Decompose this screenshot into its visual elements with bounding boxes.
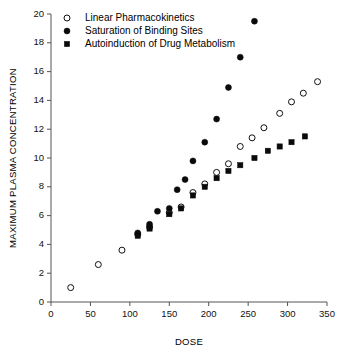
y-tick-label: 14 [33,94,44,105]
data-points-group [68,18,321,290]
x-axis-title: DOSE [175,336,203,347]
y-tick-label: 8 [39,180,44,191]
marker-filled-square [147,226,152,231]
legend-label: Autoinduction of Drug Metabolism [85,38,235,49]
marker-filled-square [289,140,294,145]
series-filled-circle [135,18,258,236]
marker-filled-square [135,233,140,238]
marker-open-circle [300,90,306,96]
x-tick-label: 300 [280,308,296,319]
legend-label: Saturation of Binding Sites [85,25,203,36]
marker-open-circle [289,99,295,105]
marker-filled-square [167,212,172,217]
x-tick-label: 0 [48,308,53,319]
x-tick-label: 250 [240,308,256,319]
marker-filled-circle [174,187,180,193]
marker-filled-circle [202,139,208,145]
marker-open-circle [261,125,267,131]
y-tick-label: 20 [33,8,44,19]
marker-filled-circle [190,158,196,164]
marker-filled-square [190,193,195,198]
marker-open-circle [277,110,283,116]
marker-filled-circle [237,54,243,60]
chart-figure: 02468101214161820050100150200250300350 L… [0,0,345,356]
x-tick-label: 350 [319,308,335,319]
marker-filled-circle [154,208,160,214]
y-tick-label: 12 [33,123,44,134]
marker-filled-circle [166,205,172,211]
marker-open-circle [237,143,243,149]
marker-filled-square [214,176,219,181]
x-tick-label: 100 [122,308,138,319]
marker-filled-circle [182,177,188,183]
y-tick-label: 18 [33,36,44,47]
marker-open-circle [64,15,70,21]
chart-legend: Linear PharmacokineticsSaturation of Bin… [64,12,235,49]
series-filled-square [135,134,307,239]
marker-open-circle [119,247,125,253]
marker-open-circle [95,262,101,268]
y-tick-label: 6 [39,209,44,220]
marker-filled-square [202,184,207,189]
marker-filled-square [226,168,231,173]
scatter-plot: 02468101214161820050100150200250300350 L… [0,0,345,356]
marker-filled-square [277,144,282,149]
y-tick-label: 0 [39,296,44,307]
marker-open-circle [249,135,255,141]
y-axis-title: MAXIMUM PLASMA CONCENTRATION [7,68,18,248]
marker-filled-square [178,206,183,211]
marker-filled-circle [225,84,231,90]
marker-open-circle [214,169,220,175]
series-open-circle [68,79,321,291]
y-tick-label: 10 [33,152,44,163]
marker-filled-circle [251,18,257,24]
marker-filled-circle [64,28,70,34]
marker-open-circle [68,285,74,291]
axes-group: 02468101214161820050100150200250300350 [33,8,335,320]
marker-filled-square [252,155,257,160]
x-tick-label: 150 [161,308,177,319]
marker-filled-circle [214,116,220,122]
marker-filled-square [64,41,69,46]
y-tick-label: 2 [39,267,44,278]
x-tick-label: 50 [85,308,96,319]
marker-filled-square [238,163,243,168]
marker-filled-square [302,134,307,139]
marker-open-circle [225,161,231,167]
marker-filled-square [265,148,270,153]
y-tick-label: 4 [39,238,44,249]
x-tick-label: 200 [201,308,217,319]
y-tick-label: 16 [33,65,44,76]
legend-label: Linear Pharmacokinetics [85,12,195,23]
marker-open-circle [315,79,321,85]
